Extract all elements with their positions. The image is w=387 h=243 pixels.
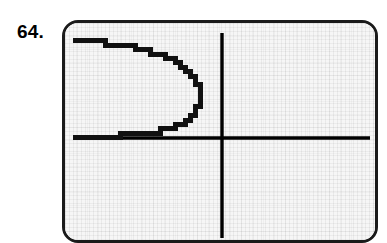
parabola-curve bbox=[73, 38, 204, 140]
exercise-number-label: 64. bbox=[17, 22, 44, 41]
figure-root: 64. bbox=[0, 0, 387, 243]
graph-plot-area bbox=[65, 23, 375, 240]
parabola-pixel-path bbox=[73, 38, 204, 140]
calculator-screen bbox=[62, 20, 378, 243]
